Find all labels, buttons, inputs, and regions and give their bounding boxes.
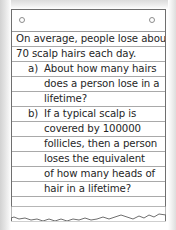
line-text: follicles, then a person xyxy=(44,137,157,150)
part-label-a: a) xyxy=(28,62,38,75)
text-line: On average, people lose about xyxy=(12,32,165,47)
line-text: 70 scalp hairs each day. xyxy=(16,47,136,60)
line-text: covered by 100000 xyxy=(44,122,141,135)
line-text: lifetime? xyxy=(44,92,87,105)
page-left-shadow xyxy=(0,0,11,230)
ruled-lines-area: On average, people lose about 70 scalp h… xyxy=(12,32,165,212)
line-text: loses the equivalent xyxy=(44,152,145,165)
text-line: follicles, then a person xyxy=(12,137,165,152)
line-text: If a typical scalp is xyxy=(44,107,136,120)
hole-punch-icon xyxy=(149,17,155,23)
notebook-sheet: On average, people lose about 70 scalp h… xyxy=(11,9,166,221)
torn-paper-edge xyxy=(11,206,166,226)
text-line: 70 scalp hairs each day. xyxy=(12,47,165,62)
page-top-shadow xyxy=(0,0,176,9)
hole-punch-icon xyxy=(19,17,25,23)
line-text: On average, people lose about xyxy=(16,32,165,45)
part-label-b: b) xyxy=(28,107,38,120)
text-line: does a person lose in a xyxy=(12,77,165,92)
page-right-shadow xyxy=(168,0,176,230)
line-text: About how many hairs xyxy=(44,62,157,75)
line-text: of how many heads of xyxy=(44,167,155,180)
line-text: does a person lose in a xyxy=(44,77,160,90)
text-line-part-a: a) About how many hairs xyxy=(12,62,165,77)
line-text: hair in a lifetime? xyxy=(44,182,131,195)
page-backdrop: On average, people lose about 70 scalp h… xyxy=(0,0,176,230)
text-line: lifetime? xyxy=(12,92,165,107)
text-line: loses the equivalent xyxy=(12,152,165,167)
hole-punch-row xyxy=(12,10,165,32)
text-line-part-b: b) If a typical scalp is xyxy=(12,107,165,122)
text-line: of how many heads of xyxy=(12,167,165,182)
text-line: covered by 100000 xyxy=(12,122,165,137)
text-line: hair in a lifetime? xyxy=(12,182,165,197)
